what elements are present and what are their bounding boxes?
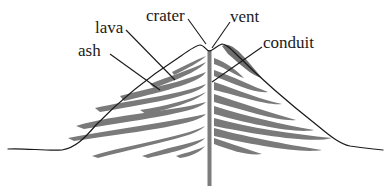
label-lava: lava (95, 18, 124, 37)
ash-leader-line (110, 54, 160, 90)
crater-leader-line (188, 19, 206, 44)
volcano-diagram: crater vent lava ash conduit (0, 0, 390, 192)
lava-layers-left (68, 56, 206, 158)
label-crater: crater (146, 6, 185, 25)
label-conduit: conduit (263, 33, 314, 52)
conduit-shaft (208, 50, 212, 186)
label-vent: vent (230, 7, 260, 26)
lava-leader-line (126, 30, 175, 80)
label-ash: ash (78, 41, 101, 60)
lava-layers-right (214, 45, 332, 155)
